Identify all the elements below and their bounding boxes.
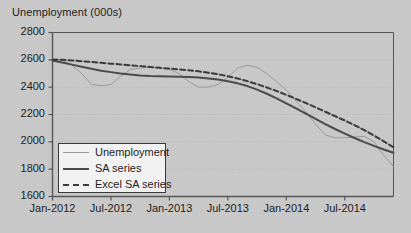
chart-title: Unemployment (000s)	[12, 6, 122, 18]
legend-item[interactable]: SA series	[59, 160, 165, 176]
y-axis-tick-label: 2200	[3, 107, 45, 119]
legend-item-label: Excel SA series	[95, 178, 171, 190]
legend-item[interactable]: Excel SA series	[59, 176, 165, 192]
chart-plot-area	[0, 0, 411, 233]
x-axis-tick-label: Jul-2014	[305, 202, 385, 214]
series-line	[53, 60, 394, 147]
y-axis-tick-label: 2400	[3, 80, 45, 92]
legend-swatch-icon	[62, 178, 90, 190]
unemployment-chart: Unemployment (000s) 28002600240022002000…	[0, 0, 411, 233]
chart-legend: UnemploymentSA seriesExcel SA series	[58, 143, 166, 193]
legend-item[interactable]: Unemployment	[59, 144, 165, 160]
y-axis-tick-label: 2800	[3, 25, 45, 37]
legend-item-label: Unemployment	[95, 146, 169, 158]
y-axis-tick-label: 1800	[3, 162, 45, 174]
legend-item-label: SA series	[95, 162, 141, 174]
y-axis-tick-label: 2000	[3, 134, 45, 146]
legend-swatch-icon	[62, 146, 90, 158]
y-axis-tick-label: 1600	[3, 189, 45, 201]
legend-swatch-icon	[62, 162, 90, 174]
y-axis-tick-label: 2600	[3, 52, 45, 64]
